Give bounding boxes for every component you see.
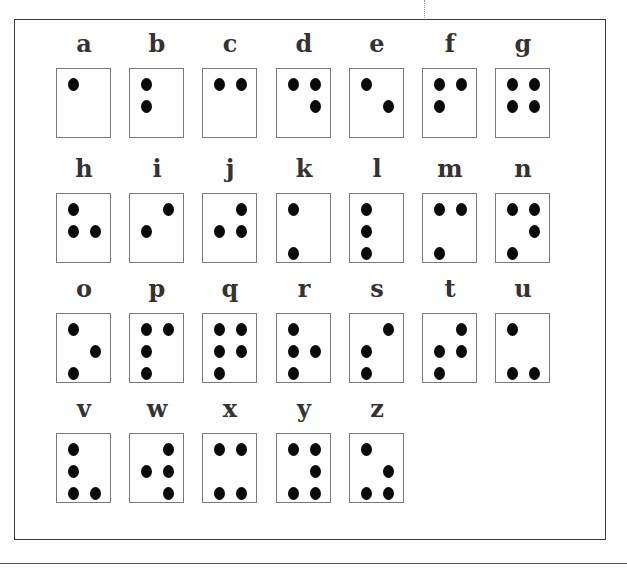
braille-dot-2	[361, 225, 372, 238]
braille-dot-2	[141, 345, 152, 358]
braille-dot-1	[361, 203, 372, 216]
braille-box	[349, 313, 404, 383]
braille-dot-1	[434, 203, 445, 216]
letter-label: l	[349, 155, 405, 185]
letter-label: s	[349, 275, 405, 305]
braille-dot-5	[529, 100, 540, 113]
braille-dot-4	[529, 203, 540, 216]
braille-dot-5	[383, 100, 394, 113]
braille-dot-2	[288, 345, 299, 358]
letter-label: j	[202, 155, 258, 185]
braille-cell-r: r	[276, 275, 332, 383]
letter-label: p	[129, 275, 185, 305]
braille-box	[129, 193, 184, 263]
braille-cell-w: w	[129, 395, 185, 503]
braille-dot-2	[434, 345, 445, 358]
braille-dot-5	[90, 345, 101, 358]
braille-dot-4	[236, 443, 247, 456]
letter-label: g	[495, 30, 551, 60]
letter-label: x	[202, 395, 258, 425]
braille-cell-v: v	[56, 395, 112, 503]
letter-label: u	[495, 275, 551, 305]
braille-cell-p: p	[129, 275, 185, 383]
letter-label: a	[56, 30, 112, 60]
braille-dot-1	[434, 78, 445, 91]
braille-dot-3	[507, 247, 518, 260]
braille-dot-1	[214, 323, 225, 336]
braille-dot-3	[434, 367, 445, 380]
letter-label: t	[422, 275, 478, 305]
braille-box	[422, 68, 477, 138]
braille-dot-1	[141, 323, 152, 336]
bottom-divider	[0, 563, 627, 564]
letter-label: h	[56, 155, 112, 185]
dotted-guide-line	[424, 0, 425, 18]
braille-box	[129, 68, 184, 138]
letter-label: n	[495, 155, 551, 185]
braille-dot-6	[383, 487, 394, 500]
braille-dot-5	[310, 465, 321, 478]
braille-dot-3	[288, 487, 299, 500]
braille-box	[276, 433, 331, 503]
braille-dot-3	[434, 247, 445, 260]
braille-dot-6	[90, 487, 101, 500]
braille-dot-5	[236, 345, 247, 358]
braille-dot-1	[507, 323, 518, 336]
braille-cell-m: m	[422, 155, 478, 263]
braille-dot-2	[68, 225, 79, 238]
braille-cell-u: u	[495, 275, 551, 383]
braille-dot-1	[68, 323, 79, 336]
braille-dot-5	[383, 465, 394, 478]
braille-dot-1	[507, 203, 518, 216]
braille-cell-z: z	[349, 395, 405, 503]
braille-cell-i: i	[129, 155, 185, 263]
braille-dot-3	[361, 367, 372, 380]
braille-dot-4	[163, 323, 174, 336]
braille-dot-1	[361, 78, 372, 91]
braille-dot-5	[310, 345, 321, 358]
braille-dot-1	[68, 78, 79, 91]
braille-box	[276, 193, 331, 263]
braille-dot-6	[236, 487, 247, 500]
braille-dot-3	[361, 487, 372, 500]
braille-dot-4	[456, 323, 467, 336]
letter-label: d	[276, 30, 332, 60]
braille-cell-s: s	[349, 275, 405, 383]
letter-label: w	[129, 395, 185, 425]
braille-box	[495, 68, 550, 138]
braille-dot-3	[68, 367, 79, 380]
braille-dot-4	[383, 323, 394, 336]
braille-box	[349, 193, 404, 263]
braille-box	[56, 313, 111, 383]
braille-dot-5	[163, 465, 174, 478]
braille-box	[495, 313, 550, 383]
braille-dot-5	[529, 225, 540, 238]
braille-box	[129, 433, 184, 503]
braille-dot-1	[288, 203, 299, 216]
braille-cell-c: c	[202, 30, 258, 138]
braille-cell-g: g	[495, 30, 551, 138]
letter-label: r	[276, 275, 332, 305]
letter-label: f	[422, 30, 478, 60]
braille-dot-2	[434, 100, 445, 113]
letter-label: b	[129, 30, 185, 60]
braille-cell-x: x	[202, 395, 258, 503]
braille-box	[202, 433, 257, 503]
braille-box	[349, 68, 404, 138]
braille-box	[276, 68, 331, 138]
braille-dot-3	[214, 487, 225, 500]
braille-dot-1	[361, 443, 372, 456]
braille-dot-5	[90, 225, 101, 238]
letter-label: c	[202, 30, 258, 60]
braille-dot-3	[288, 367, 299, 380]
braille-cell-k: k	[276, 155, 332, 263]
braille-dot-3	[361, 247, 372, 260]
braille-cell-d: d	[276, 30, 332, 138]
braille-cell-e: e	[349, 30, 405, 138]
braille-box	[202, 193, 257, 263]
braille-dot-3	[507, 367, 518, 380]
braille-dot-6	[163, 487, 174, 500]
braille-dot-3	[214, 367, 225, 380]
braille-cell-a: a	[56, 30, 112, 138]
braille-dot-1	[214, 443, 225, 456]
